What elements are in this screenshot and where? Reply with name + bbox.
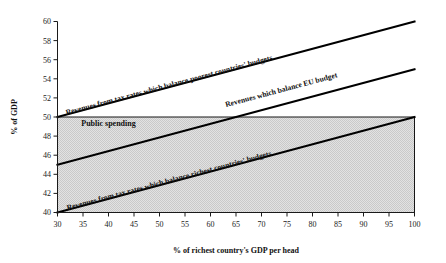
y-axis-title: % of GDP [10,99,19,135]
x-tick-label-11: 85 [334,220,342,229]
y-tick-label-0: 40 [43,208,51,217]
chart-figure: 4042444648505254565860303540455055606570… [0,0,446,263]
x-tick-label-2: 40 [105,220,113,229]
y-tick-label-3: 46 [43,151,51,160]
y-tick-label-10: 60 [43,17,51,26]
region-label-0: Public spending [81,119,135,128]
y-tick-label-6: 52 [43,94,51,103]
economics-line-chart: 4042444648505254565860303540455055606570… [0,0,446,263]
y-tick-label-9: 58 [43,37,51,46]
y-tick-label-1: 42 [43,189,51,198]
region-label-group: Public spending [81,119,135,128]
y-tick-label-7: 54 [43,75,51,84]
x-tick-label-13: 95 [385,220,393,229]
x-tick-label-3: 45 [130,220,138,229]
x-tick-label-6: 60 [207,220,215,229]
x-tick-label-10: 80 [309,220,317,229]
x-tick-label-14: 100 [409,220,421,229]
x-tick-label-5: 55 [181,220,189,229]
x-tick-label-1: 35 [79,220,87,229]
y-tick-label-2: 44 [43,170,51,179]
y-tick-label-5: 50 [43,113,51,122]
y-tick-label-8: 56 [43,56,51,65]
x-tick-label-9: 75 [283,220,291,229]
x-tick-label-4: 50 [156,220,164,229]
x-tick-label-8: 70 [258,220,266,229]
x-axis-title: % of richest country's GDP per head [173,246,300,255]
y-tick-label-4: 48 [43,132,51,141]
x-tick-label-0: 30 [54,220,62,229]
x-tick-label-7: 65 [232,220,240,229]
x-tick-label-12: 90 [360,220,368,229]
